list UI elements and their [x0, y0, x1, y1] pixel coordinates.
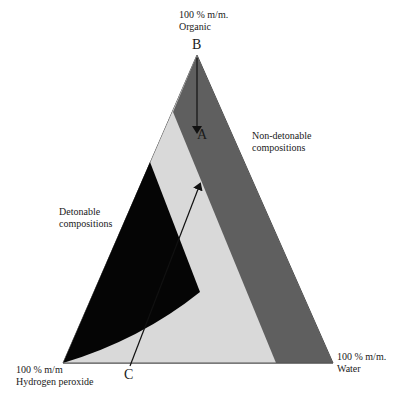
- hydrogen-peroxide-name: Hydrogen peroxide: [16, 376, 93, 388]
- ternary-diagram: [0, 0, 396, 394]
- point-b-label: B: [192, 38, 201, 52]
- detonable-line1: Detonable: [59, 206, 112, 218]
- non-detonable-line2: compositions: [252, 142, 311, 154]
- organic-percent: 100 % m/m.: [179, 9, 228, 21]
- non-detonable-label: Non-detonable compositions: [252, 130, 311, 154]
- water-name: Water: [337, 363, 386, 375]
- vertex-water-label: 100 % m/m. Water: [337, 351, 386, 375]
- organic-name: Organic: [179, 21, 228, 33]
- vertex-hydrogen-peroxide-label: 100 % m/m Hydrogen peroxide: [16, 364, 93, 388]
- point-c-label: C: [124, 368, 133, 382]
- detonable-label: Detonable compositions: [59, 206, 112, 230]
- vertex-organic-label: 100 % m/m. Organic: [179, 9, 228, 33]
- point-a-label: A: [197, 128, 207, 142]
- water-percent: 100 % m/m.: [337, 351, 386, 363]
- detonable-line2: compositions: [59, 218, 112, 230]
- hydrogen-peroxide-percent: 100 % m/m: [16, 364, 93, 376]
- non-detonable-line1: Non-detonable: [252, 130, 311, 142]
